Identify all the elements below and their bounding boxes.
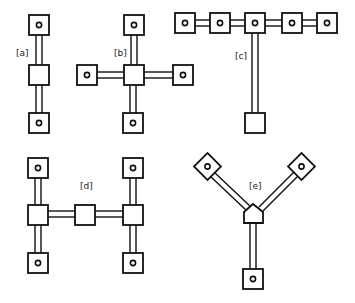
panel-label-b: [b] [114,48,127,58]
panel-label-d: [d] [80,181,93,191]
diagram-canvas: [a] [b] [0,0,355,303]
hub-node [244,204,263,223]
panel-d: [d] [28,158,143,273]
center-node [29,65,49,85]
plain-node [245,113,265,133]
bridge-node [75,205,95,225]
panel-label-e: [e] [249,181,262,191]
panel-e: [e] [194,153,315,289]
center-node [124,65,144,85]
center-node [123,205,143,225]
panel-c: [c] [175,13,337,133]
panel-label-a: [a] [16,48,29,58]
panel-label-c: [c] [235,51,247,61]
panel-a: [a] [16,15,49,133]
center-node [28,205,48,225]
